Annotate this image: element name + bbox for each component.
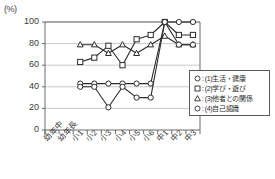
square-marker-icon	[193, 84, 202, 93]
axes	[42, 22, 200, 137]
data-point-triangle	[148, 42, 154, 47]
legend-item-3: :(3)他者との関係	[193, 93, 267, 103]
data-point-square	[78, 59, 83, 64]
data-point-triangle	[120, 42, 126, 47]
circle-marker-icon	[193, 74, 202, 83]
legend-label: (1)生活・健康	[205, 73, 246, 83]
triangle-marker-icon	[193, 94, 202, 103]
data-point-square	[106, 43, 111, 48]
data-point-circle	[134, 95, 139, 100]
data-point-circle	[162, 19, 167, 24]
y-tick-label-80: 80	[13, 39, 39, 48]
y-tick-label-100: 100	[13, 17, 39, 26]
chart-container: (%) 020406080100 幼年中幼年長小1小2小3小4小5小6中1中2中…	[0, 0, 275, 179]
legend-separator: :	[202, 75, 204, 82]
legend-label: (2)学び・遊び	[205, 83, 246, 93]
data-point-square	[92, 55, 97, 60]
legend-separator: :	[202, 95, 204, 102]
data-point-circle	[134, 81, 139, 86]
data-point-square	[190, 32, 195, 37]
data-point-square	[134, 37, 139, 42]
data-point-square	[148, 32, 153, 37]
legend-item-2: :(2)学び・遊び	[193, 83, 267, 93]
legend-separator: :	[202, 85, 204, 92]
data-point-circle	[92, 84, 97, 89]
data-point-square	[120, 63, 125, 68]
legend-separator: :	[202, 105, 204, 112]
data-point-circle	[106, 81, 111, 86]
legend-label: (4)自己認識	[205, 103, 239, 113]
data-point-circle	[120, 84, 125, 89]
data-point-circle	[148, 95, 153, 100]
data-point-circle	[176, 42, 181, 47]
legend-item-1: :(1)生活・健康	[193, 73, 267, 83]
data-point-circle	[190, 42, 195, 47]
legend-label: (3)他者との関係	[205, 93, 253, 103]
series-lines	[77, 19, 196, 110]
data-point-triangle	[134, 50, 140, 55]
circle-marker-icon	[193, 104, 202, 113]
legend-item-4: :(4)自己認識	[193, 103, 267, 113]
data-point-circle	[190, 19, 195, 24]
y-tick-label-20: 20	[13, 103, 39, 112]
y-tick-label-0: 0	[13, 125, 39, 134]
y-tick-label-60: 60	[13, 60, 39, 69]
y-tick-label-40: 40	[13, 82, 39, 91]
data-point-triangle	[106, 50, 112, 55]
data-point-square	[176, 32, 181, 37]
data-point-circle	[106, 105, 111, 110]
data-point-circle	[78, 84, 83, 89]
data-point-circle	[176, 19, 181, 24]
chart-legend: :(1)生活・健康:(2)学び・遊び:(3)他者との関係:(4)自己認識	[189, 70, 270, 116]
